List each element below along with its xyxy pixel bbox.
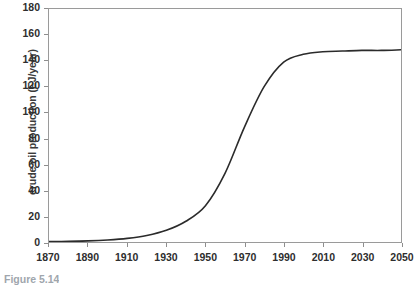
- x-axis-tick-mark: [363, 243, 364, 247]
- x-axis-tick-mark: [402, 243, 403, 247]
- y-axis-tick-label: 160: [12, 27, 40, 39]
- x-axis-tick-label: 1990: [264, 251, 304, 263]
- x-axis-tick-mark: [245, 243, 246, 247]
- y-axis-tick-label: 140: [12, 53, 40, 65]
- series-line-crude-oil-production: [49, 50, 401, 242]
- x-axis-tick-mark: [166, 243, 167, 247]
- x-axis-tick-mark: [48, 243, 49, 247]
- x-axis-tick-label: 1930: [146, 251, 186, 263]
- y-axis-tick-label: 100: [12, 105, 40, 117]
- y-axis-tick-label: 120: [12, 79, 40, 91]
- x-axis-tick-mark: [127, 243, 128, 247]
- x-axis-tick-mark: [87, 243, 88, 247]
- y-axis-tick-label: 20: [12, 210, 40, 222]
- x-axis-tick-label: 1870: [28, 251, 68, 263]
- x-axis-tick-label: 2010: [303, 251, 343, 263]
- x-axis-tick-label: 2050: [382, 251, 419, 263]
- y-axis-tick-label: 80: [12, 132, 40, 144]
- x-axis-tick-mark: [205, 243, 206, 247]
- x-axis-tick-label: 1890: [67, 251, 107, 263]
- x-axis-tick-label: 1970: [225, 251, 265, 263]
- x-axis-tick-label: 1950: [185, 251, 225, 263]
- y-axis-tick-label: 60: [12, 158, 40, 170]
- line-series-canvas: [49, 9, 401, 242]
- figure-caption: Figure 5.14: [4, 273, 59, 285]
- x-axis-tick-label: 2030: [343, 251, 383, 263]
- x-axis-tick-mark: [284, 243, 285, 247]
- x-axis-tick-mark: [323, 243, 324, 247]
- y-axis-tick-label: 180: [12, 1, 40, 13]
- y-axis-tick-label: 40: [12, 184, 40, 196]
- x-axis-tick-label: 1910: [107, 251, 147, 263]
- plot-area: [48, 8, 402, 243]
- y-axis-tick-label: 0: [12, 236, 40, 248]
- figure-container: crude oil production (EJ/year) 020406080…: [0, 0, 419, 285]
